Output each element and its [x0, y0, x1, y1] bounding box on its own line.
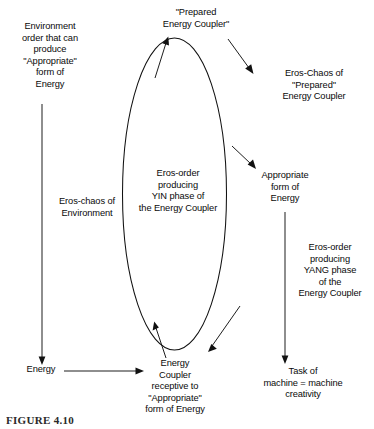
- edge-return-to-coupler-line: [212, 306, 240, 346]
- edge-return-to-coupler-arrowhead: [208, 344, 217, 352]
- node-energy: Energy: [10, 364, 72, 376]
- node-eros-chaos-of-prepared-energy-coupler: Eros-Chaos of "Prepared" Energy Coupler: [262, 68, 366, 103]
- edge-appropriate-to-task-arrowhead: [282, 356, 289, 365]
- edge-loop-entry-arrowhead: [153, 322, 159, 331]
- node-eros-order-yang-phase: Eros-order producing YANG phase of the E…: [288, 242, 372, 300]
- node-eros-order-yin-phase: Eros-order producing YIN phase of the En…: [130, 168, 226, 214]
- edge-ellipse-to-appropriate-arrowhead: [248, 160, 256, 170]
- diagram-canvas: Environment order that can produce "Appr…: [0, 0, 374, 429]
- edge-prepared-to-eroschaos-arrowhead: [245, 64, 253, 74]
- figure-caption: FIGURE 4.10: [6, 414, 156, 429]
- edge-label-eros-chaos-of-environment: Eros-chaos of Environment: [36, 196, 138, 219]
- node-prepared-energy-coupler: "Prepared Energy Coupler": [148, 7, 244, 30]
- node-task-of-machine: Task of machine = machine creativity: [240, 366, 366, 401]
- node-environment-order: Environment order that can produce "Appr…: [2, 21, 98, 91]
- edge-prepared-to-eroschaos-line: [228, 39, 249, 68]
- edge-loop-entry-line: [156, 328, 166, 358]
- edge-ellipse-to-appropriate-line: [232, 146, 251, 164]
- node-appropriate-form-of-energy: Appropriate form of Energy: [246, 170, 324, 205]
- node-energy-coupler-receptive: Energy Coupler receptive to "Appropriate…: [130, 358, 220, 416]
